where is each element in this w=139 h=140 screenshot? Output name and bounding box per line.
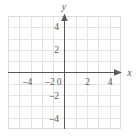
x-tick-label-neg2: –2 [44,77,55,87]
x-tick-label-pos4: 4 [108,77,113,87]
coordinate-plane-svg: –4 –2 2 4 0 4 2 –2 –4 x y [0,0,139,140]
origin-label: 0 [57,77,62,87]
x-axis-name-label: x [126,67,132,78]
y-axis-name-label: y [61,1,67,12]
x-tick-label-neg4: –4 [22,77,33,87]
y-tick-label-pos2: 2 [54,45,59,55]
x-tick-label-pos2: 2 [85,77,90,87]
y-tick-label-neg4: –4 [49,114,60,124]
coordinate-plane-figure: –4 –2 2 4 0 4 2 –2 –4 x y [0,0,139,140]
y-tick-label-neg2: –2 [49,91,60,101]
y-tick-label-pos4: 4 [54,22,59,32]
